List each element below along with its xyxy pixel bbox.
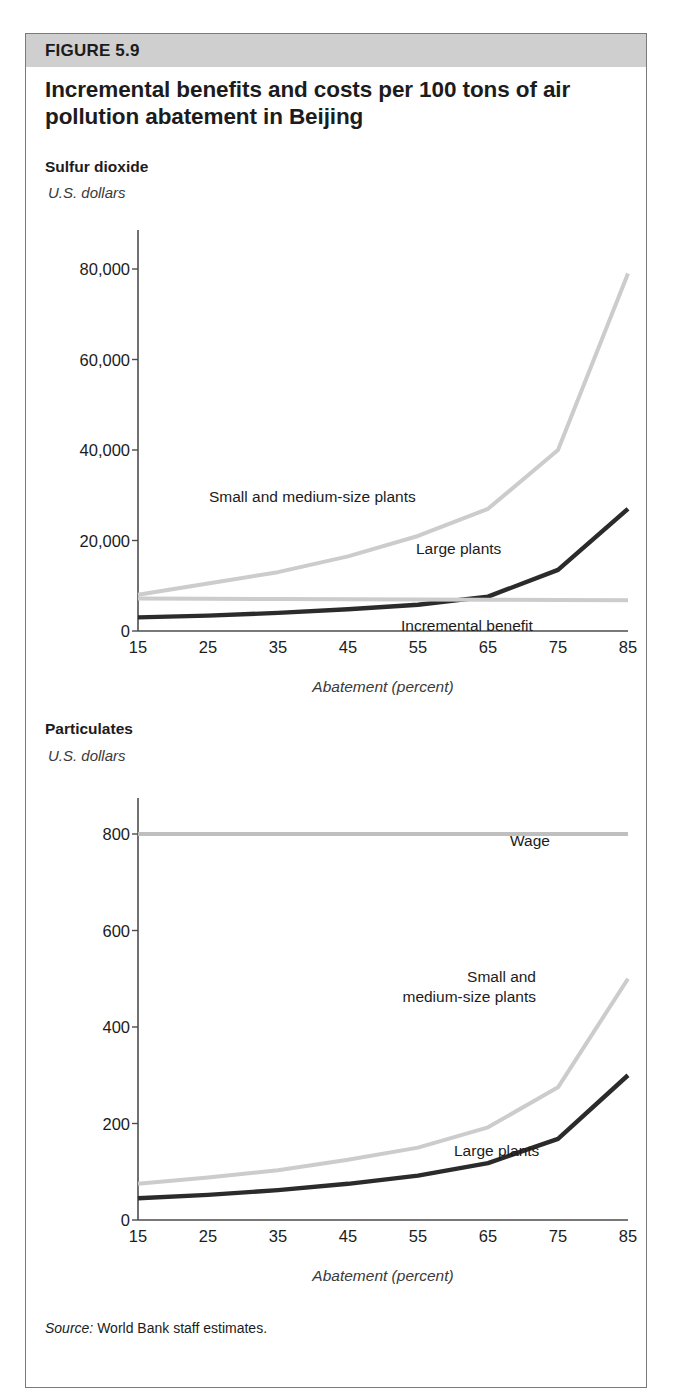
y-tick-label: 0	[26, 1211, 130, 1230]
y-tick-label: 200	[26, 1114, 130, 1133]
chart2-label-wage: Wage	[510, 832, 550, 850]
x-tick-label: 25	[199, 1227, 217, 1246]
chart-particulates: 0200400600800 1525354555657585	[26, 34, 648, 1294]
figure-box: FIGURE 5.9 Incremental benefits and cost…	[25, 33, 647, 1388]
x-tick-label: 85	[619, 1227, 637, 1246]
chart2-label-small-medium-line2: medium-size plants	[336, 988, 536, 1006]
x-tick-label: 75	[549, 1227, 567, 1246]
chart2-label-large-plants: Large plants	[454, 1142, 539, 1160]
x-tick-label: 15	[129, 1227, 147, 1246]
y-tick-label: 800	[26, 825, 130, 844]
x-tick-label: 35	[269, 1227, 287, 1246]
x-tick-label: 45	[339, 1227, 357, 1246]
x-tick-label: 55	[409, 1227, 427, 1246]
y-tick-label: 400	[26, 1018, 130, 1037]
chart2-label-small-medium-line1: Small and	[336, 968, 536, 986]
source-note: Source: World Bank staff estimates.	[45, 1320, 267, 1336]
source-text: World Bank staff estimates.	[97, 1320, 267, 1336]
chart2-x-axis-title: Abatement (percent)	[138, 1267, 628, 1285]
series-line-1	[138, 979, 628, 1184]
source-label: Source:	[45, 1320, 93, 1336]
y-tick-label: 600	[26, 921, 130, 940]
series-line-2	[138, 1075, 628, 1198]
x-tick-label: 65	[479, 1227, 497, 1246]
